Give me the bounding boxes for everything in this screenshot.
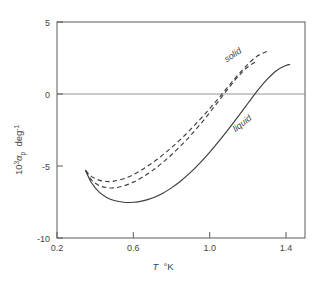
- x-tick-label-0-6: 0.6: [127, 243, 140, 253]
- expansion-coefficient-chart: 5 0 -5 -10 0.2 0.6 1.0 1.4 10 T °K 103αp…: [0, 0, 325, 282]
- y-axis-title: 103αp deg-1: [13, 125, 27, 176]
- x-tick-marks: [57, 232, 286, 238]
- chart-figure: 5 0 -5 -10 0.2 0.6 1.0 1.4 10 T °K 103αp…: [0, 0, 325, 282]
- x-axis-title: 10 T °K: [152, 261, 174, 272]
- y-tick-marks: [57, 22, 63, 238]
- series-solid-upper: [86, 52, 267, 182]
- y-tick-label-minus10: -10: [37, 234, 50, 244]
- data-curves: [86, 52, 290, 203]
- y-tick-label-5: 5: [45, 18, 50, 28]
- svg-text:103αp deg-1: 103αp deg-1: [13, 125, 27, 176]
- curve-label-solid: solid: [222, 45, 244, 64]
- y-tick-label-0: 0: [45, 90, 50, 100]
- plot-frame: [57, 22, 305, 238]
- x-tick-label-1-0: 1.0: [203, 243, 216, 253]
- x-tick-label-1-4: 1.4: [280, 243, 293, 253]
- svg-text:10 T °K: 10 T °K: [152, 261, 174, 272]
- series-liquid: [86, 64, 290, 202]
- y-tick-label-minus5: -5: [42, 162, 50, 172]
- x-tick-label-0-2: 0.2: [51, 243, 64, 253]
- curve-label-liquid: liquid: [231, 112, 255, 133]
